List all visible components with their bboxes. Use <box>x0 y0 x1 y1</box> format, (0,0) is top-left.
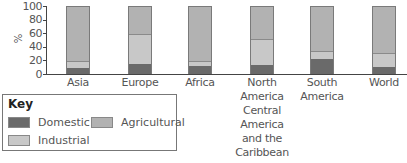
legend-item-domestic: Domestic <box>8 116 90 129</box>
y-tick-mark <box>43 20 47 21</box>
agricultural-segment <box>251 7 273 39</box>
domestic-segment <box>129 64 151 74</box>
label-line: Caribbean <box>227 146 297 160</box>
y-tick-0: 0 <box>12 69 42 80</box>
x-label-africa: Africa <box>165 76 235 90</box>
x-label-south-america: South America <box>287 76 357 104</box>
legend-label: Agricultural <box>121 116 185 129</box>
y-tick-100: 100 <box>12 1 42 12</box>
legend-item-industrial: Industrial <box>8 134 90 147</box>
legend-label: Domestic <box>38 116 90 129</box>
label-line: America <box>227 118 297 132</box>
domestic-segment <box>311 59 333 74</box>
industrial-segment <box>311 51 333 59</box>
agricultural-segment <box>129 7 151 34</box>
bar-north <box>250 6 274 74</box>
y-tick-20: 20 <box>12 55 42 66</box>
bar-africa <box>188 6 212 74</box>
label-line: South <box>287 76 357 90</box>
y-axis <box>46 6 47 75</box>
domestic-swatch-icon <box>8 117 30 128</box>
legend-label: Industrial <box>38 134 90 147</box>
domestic-segment <box>189 66 211 74</box>
industrial-segment <box>129 34 151 64</box>
agricultural-segment <box>373 7 395 53</box>
y-tick-mark <box>43 47 47 48</box>
bar-south <box>310 6 334 74</box>
y-tick-80: 80 <box>12 14 42 25</box>
label-line: America <box>287 90 357 104</box>
y-tick-mark <box>43 6 47 7</box>
x-label-asia: Asia <box>43 76 113 90</box>
bar-europe <box>128 6 152 74</box>
agricultural-swatch-icon <box>91 117 113 128</box>
x-axis <box>46 74 407 75</box>
agricultural-segment <box>311 7 333 51</box>
agricultural-segment <box>189 7 211 61</box>
label-line: and the <box>227 132 297 146</box>
domestic-segment <box>373 67 395 74</box>
bar-asia <box>66 6 90 74</box>
y-tick-60: 60 <box>12 28 42 39</box>
industrial-segment <box>373 53 395 67</box>
bar-world <box>372 6 396 74</box>
domestic-segment <box>251 65 273 74</box>
label-line: Central <box>227 104 297 118</box>
legend-item-agricultural: Agricultural <box>91 116 185 129</box>
y-tick-mark <box>43 60 47 61</box>
legend-title: Key <box>8 97 33 111</box>
industrial-swatch-icon <box>8 135 30 146</box>
agricultural-segment <box>67 7 89 61</box>
y-tick-mark <box>43 33 47 34</box>
water-use-chart: % 100 80 60 40 20 0 Asia Europe Africa N… <box>0 0 407 163</box>
x-label-world: World <box>349 76 407 90</box>
y-tick-40: 40 <box>12 41 42 52</box>
industrial-segment <box>67 61 89 68</box>
industrial-segment <box>251 39 273 65</box>
legend-key: Key Domestic Agricultural Industrial <box>2 94 177 151</box>
